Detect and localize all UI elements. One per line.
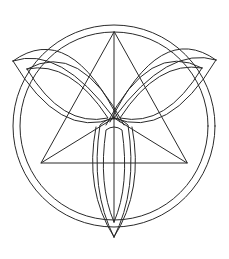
- center-point: [113, 117, 116, 120]
- triquetra-svg: [0, 0, 229, 259]
- triquetra-diagram: [0, 0, 229, 259]
